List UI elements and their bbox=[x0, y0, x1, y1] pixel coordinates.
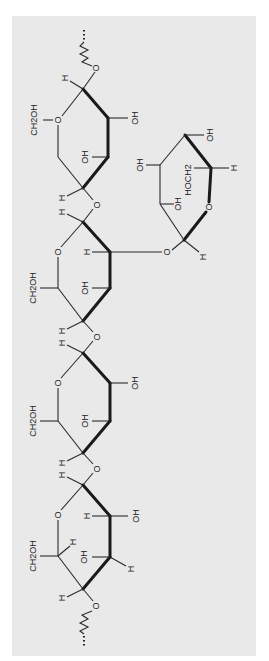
label: H bbox=[57, 460, 67, 467]
label: O bbox=[92, 465, 102, 472]
label: HOCH2 bbox=[183, 164, 193, 196]
label: CH2OH bbox=[29, 104, 39, 136]
label: CH2OH bbox=[28, 540, 38, 572]
label: OH bbox=[130, 376, 140, 390]
label: H bbox=[68, 539, 78, 546]
labels: CH2OH O O H OH OH H O H O H CH2OH OH H O… bbox=[28, 64, 239, 609]
label: H bbox=[82, 513, 92, 520]
label: OH bbox=[80, 414, 90, 428]
label: O bbox=[53, 379, 63, 386]
label: O bbox=[162, 248, 172, 255]
label: H bbox=[57, 328, 67, 335]
label: H bbox=[57, 340, 67, 347]
chain-end-bottom bbox=[80, 611, 92, 646]
label: H bbox=[82, 249, 92, 256]
label: H bbox=[57, 472, 67, 479]
label: O bbox=[92, 201, 102, 208]
label: O bbox=[92, 333, 102, 340]
label: OH bbox=[173, 197, 183, 211]
label: OH bbox=[80, 150, 90, 164]
label: H bbox=[57, 195, 67, 202]
ring-3 bbox=[40, 341, 128, 464]
label: H bbox=[57, 209, 67, 216]
label: O bbox=[53, 116, 63, 123]
label: O bbox=[91, 64, 101, 71]
chain-end-top bbox=[80, 30, 92, 66]
label: OH bbox=[135, 158, 145, 172]
label: CH2OH bbox=[28, 272, 38, 304]
label: H bbox=[60, 75, 70, 82]
label: OH bbox=[205, 128, 215, 142]
label: H bbox=[57, 595, 67, 602]
label: OH bbox=[79, 550, 89, 564]
label: H bbox=[198, 254, 208, 261]
label: O bbox=[53, 248, 63, 255]
ring-4 bbox=[40, 473, 128, 601]
label: H bbox=[229, 165, 239, 172]
label: OH bbox=[131, 509, 141, 523]
label: CH2OH bbox=[28, 405, 38, 437]
ring-1 bbox=[43, 72, 128, 200]
label: O bbox=[204, 203, 214, 210]
label: OH bbox=[80, 281, 90, 295]
ring-2 bbox=[40, 209, 162, 332]
label: OH bbox=[130, 111, 140, 125]
label: O bbox=[53, 511, 63, 518]
label: O bbox=[91, 602, 101, 609]
label: H bbox=[126, 566, 136, 573]
polysaccharide-structure: CH2OH O O H OH OH H O H O H CH2OH OH H O… bbox=[0, 0, 269, 661]
